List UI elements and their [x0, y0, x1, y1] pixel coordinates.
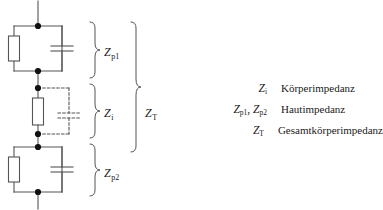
legend-symbol-zp2-main: Z [253, 103, 259, 115]
legend-symbol-zp2-sub: p2 [260, 108, 268, 117]
node-middle-upper [35, 85, 41, 91]
legend-symbol-zi-sub: i [265, 87, 267, 96]
label-z-t-sub: T [152, 113, 157, 122]
legend-row: ZT Gesamtkörperimpedanz [205, 120, 383, 141]
label-z-p2: Zp2 [104, 166, 119, 182]
legend-symbol-zi-main: Z [259, 82, 265, 94]
legend-description-zi: Körperimpedanz [281, 78, 355, 99]
legend-symbol-zp1-sub: p1 [240, 108, 248, 117]
brace-z-i [90, 84, 100, 138]
resistor-top [9, 36, 20, 61]
label-z-p2-main: Z [104, 166, 111, 180]
label-z-p1-sub: p1 [111, 52, 119, 61]
brace-z-p2 [90, 144, 100, 196]
node-top [35, 23, 41, 29]
legend-row: Zp1, Zp2 Hautimpedanz [205, 99, 383, 120]
brace-z-p1 [90, 22, 100, 78]
label-z-t: ZT [145, 106, 157, 122]
label-z-i-sub: i [111, 113, 114, 122]
legend-symbol-zt: ZT [205, 120, 278, 142]
resistor-bottom [9, 157, 20, 182]
label-z-p2-sub: p2 [111, 173, 119, 182]
brace-z-t [131, 22, 141, 152]
node-bottom [35, 189, 41, 195]
legend-symbol-zp1-main: Z [233, 103, 239, 115]
label-z-i-main: Z [104, 106, 111, 120]
node-top-lower [35, 68, 41, 74]
legend-symbol-zt-sub: T [259, 129, 264, 138]
legend-symbol-zi: Zi [205, 78, 281, 100]
label-z-p1: Zp1 [104, 45, 119, 61]
legend: Zi Körperimpedanz Zp1, Zp2 Hautimpedanz … [205, 78, 383, 141]
node-middle-lower [35, 131, 41, 137]
label-z-i: Zi [104, 106, 114, 122]
label-z-p1-main: Z [104, 45, 111, 59]
legend-symbol-zp: Zp1, Zp2 [205, 99, 281, 121]
resistor-middle [33, 98, 44, 125]
legend-description-zt: Gesamtkörperimpedanz [278, 120, 383, 141]
label-z-t-main: Z [145, 106, 152, 120]
legend-row: Zi Körperimpedanz [205, 78, 383, 99]
legend-description-zp: Hautimpedanz [281, 99, 345, 120]
node-bottom-upper [35, 144, 41, 150]
